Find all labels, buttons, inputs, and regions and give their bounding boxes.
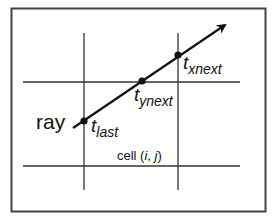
cell-label: cell (i, j) bbox=[117, 148, 162, 163]
diagram-canvas: ray tlast tynext txnext cell (i, j) bbox=[0, 0, 278, 219]
point-t-xnext bbox=[174, 51, 181, 58]
t-ynext-label: tynext bbox=[134, 84, 174, 109]
t-last-label: tlast bbox=[91, 115, 119, 140]
grid-traversal-diagram: ray tlast tynext txnext cell (i, j) bbox=[0, 0, 278, 219]
t-xnext-label: txnext bbox=[183, 52, 223, 77]
ray-label: ray bbox=[36, 110, 66, 133]
point-t-last bbox=[80, 117, 87, 124]
point-t-ynext bbox=[138, 77, 145, 84]
